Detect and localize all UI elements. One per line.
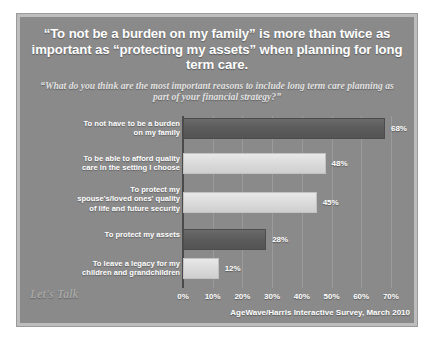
chart-x-tick-label: 50%	[317, 292, 347, 301]
chart-row-label-line: of life and future security	[30, 204, 180, 213]
chart-row-label-line: spouse's/loved ones' quality	[30, 194, 180, 203]
chart-gridline	[391, 116, 392, 288]
chart-x-tick-label: 40%	[287, 292, 317, 301]
chart-bar-value: 28%	[272, 235, 288, 244]
chart-row-label-line: To be able to afford quality	[30, 154, 180, 163]
chart-bar-value: 45%	[323, 198, 339, 207]
chart-row-label-line: To protect my assets	[30, 230, 180, 239]
chart-x-axis: 0%10%20%30%40%50%60%70%	[20, 292, 414, 306]
brand-logo: Let's Talk	[30, 288, 79, 300]
chart-row-label: To leave a legacy for mychildren and gra…	[30, 259, 180, 278]
chart-bar	[183, 153, 326, 174]
chart-bar-value: 12%	[225, 264, 241, 273]
chart-x-tick-label: 60%	[346, 292, 376, 301]
chart-row-label: To protect myspouse's/loved ones' qualit…	[30, 185, 180, 213]
chart-x-tick-label: 10%	[198, 292, 228, 301]
chart-bar	[183, 258, 219, 279]
chart-x-tick-label: 20%	[227, 292, 257, 301]
chart-bar	[183, 229, 266, 250]
chart-row-label: To be able to afford qualitycare in the …	[30, 154, 180, 173]
slide-subtitle: “What do you think are the most importan…	[36, 80, 398, 103]
chart-bar-value: 68%	[391, 124, 407, 133]
bar-chart: To not have to be a burdenon my family68…	[20, 112, 414, 323]
chart-row-label-line: To leave a legacy for my	[30, 259, 180, 268]
slide-body: “To not be a burden on my family” is mor…	[20, 17, 414, 323]
chart-bar	[183, 192, 317, 213]
source-attribution: AgeWave/Harris Interactive Survey, March…	[194, 308, 410, 317]
chart-row-label-line: children and grandchildren	[30, 268, 180, 277]
chart-x-tick-label: 70%	[376, 292, 406, 301]
chart-row-label: To protect my assets	[30, 230, 180, 239]
chart-gridline	[361, 116, 362, 288]
page-title: “To not be a burden on my family” is mor…	[28, 26, 406, 73]
chart-bar	[183, 118, 385, 139]
chart-row-label: To not have to be a burdenon my family	[30, 119, 180, 138]
chart-row-label-line: on my family	[30, 128, 180, 137]
chart-bar-value: 48%	[332, 159, 348, 168]
chart-x-tick-label: 30%	[257, 292, 287, 301]
chart-x-tick-label: 0%	[168, 292, 198, 301]
slide-frame: “To not be a burden on my family” is mor…	[17, 14, 417, 326]
chart-row-label-line: To not have to be a burden	[30, 119, 180, 128]
chart-row-label-line: To protect my	[30, 185, 180, 194]
chart-row-label-line: care in the setting I choose	[30, 163, 180, 172]
